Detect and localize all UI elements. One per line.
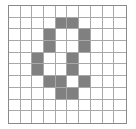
grid-cell-empty xyxy=(103,41,115,53)
grid-cell-empty xyxy=(103,64,115,76)
grid-cell-empty xyxy=(56,53,68,65)
grid-cell-empty xyxy=(9,64,21,76)
grid-cell-empty xyxy=(91,111,103,123)
grid-cell-empty xyxy=(91,6,103,18)
grid-cell-empty xyxy=(21,76,33,88)
grid-cell-empty xyxy=(79,64,91,76)
grid-cell-empty xyxy=(9,100,21,112)
grid-cell-empty xyxy=(32,18,44,30)
grid-cell-shaded xyxy=(56,18,68,30)
grid-cell-empty xyxy=(79,53,91,65)
grid-cell-empty xyxy=(79,111,91,123)
grid-cell-empty xyxy=(9,41,21,53)
grid-cell-empty xyxy=(9,29,21,41)
grid-cell-empty xyxy=(21,64,33,76)
grid-cell-empty xyxy=(21,88,33,100)
grid-cell-empty xyxy=(103,53,115,65)
grid-cell-shaded xyxy=(44,76,56,88)
grid-cell-empty xyxy=(44,111,56,123)
grid-cell-empty xyxy=(114,29,126,41)
grid-cell-empty xyxy=(9,76,21,88)
grid-cell-empty xyxy=(67,76,79,88)
grid-cell-empty xyxy=(56,100,68,112)
grid-cell-empty xyxy=(91,29,103,41)
grid-cell-empty xyxy=(103,76,115,88)
grid-cell-empty xyxy=(9,88,21,100)
grid-cell-shaded xyxy=(67,53,79,65)
grid-cell-empty xyxy=(114,41,126,53)
grid-cell-shaded xyxy=(56,88,68,100)
grid-cell-empty xyxy=(91,41,103,53)
grid-cell-empty xyxy=(79,88,91,100)
grid-cell-empty xyxy=(21,41,33,53)
grid-cell-empty xyxy=(32,100,44,112)
grid-cell-shaded xyxy=(56,76,68,88)
grid-cell-empty xyxy=(44,100,56,112)
grid-cell-empty xyxy=(56,111,68,123)
grid-cell-empty xyxy=(32,29,44,41)
grid-cell-empty xyxy=(44,53,56,65)
grid-cell-empty xyxy=(114,88,126,100)
grid-cell-empty xyxy=(21,111,33,123)
grid-cell-empty xyxy=(114,64,126,76)
grid-cell-empty xyxy=(103,100,115,112)
grid-cell-empty xyxy=(103,6,115,18)
grid-cell-empty xyxy=(21,100,33,112)
grid-cell-shaded xyxy=(67,88,79,100)
grid-cell-empty xyxy=(114,111,126,123)
grid-cell-empty xyxy=(67,111,79,123)
grid-cell-empty xyxy=(56,6,68,18)
grid-cell-empty xyxy=(114,76,126,88)
grid-cell-empty xyxy=(114,18,126,30)
grid-cell-empty xyxy=(91,53,103,65)
grid-cell-empty xyxy=(103,18,115,30)
grid-cell-empty xyxy=(44,88,56,100)
grid-cell-empty xyxy=(56,41,68,53)
grid-cell-shaded xyxy=(67,18,79,30)
grid-cell-empty xyxy=(32,111,44,123)
grid-cell-empty xyxy=(67,41,79,53)
grid-cell-shaded xyxy=(32,53,44,65)
grid-cell-empty xyxy=(79,18,91,30)
grid-cell-empty xyxy=(114,100,126,112)
grid-cell-empty xyxy=(103,29,115,41)
grid-cell-empty xyxy=(103,111,115,123)
grid-cell-empty xyxy=(91,64,103,76)
grid-cell-empty xyxy=(79,6,91,18)
grid-cell-empty xyxy=(32,88,44,100)
grid-cell-shaded xyxy=(67,64,79,76)
grid-cell-empty xyxy=(9,6,21,18)
grid-cell-empty xyxy=(9,18,21,30)
grid-cell-empty xyxy=(79,100,91,112)
grid-cell-empty xyxy=(32,76,44,88)
grid-figure-canvas xyxy=(0,0,136,129)
grid-cell-empty xyxy=(114,6,126,18)
grid-cell-empty xyxy=(91,100,103,112)
grid-cell-empty xyxy=(9,53,21,65)
grid-cell-empty xyxy=(21,29,33,41)
grid-cell-empty xyxy=(32,41,44,53)
grid-cell-empty xyxy=(56,64,68,76)
grid-cell-empty xyxy=(67,100,79,112)
grid-cell-empty xyxy=(21,18,33,30)
grid-cell-empty xyxy=(91,88,103,100)
grid-cell-empty xyxy=(56,29,68,41)
grid-cell-shaded xyxy=(79,76,91,88)
grid-cell-empty xyxy=(21,6,33,18)
shaded-grid xyxy=(8,5,127,124)
grid-cell-empty xyxy=(32,6,44,18)
grid-cell-empty xyxy=(114,53,126,65)
grid-cell-empty xyxy=(44,6,56,18)
grid-cell-empty xyxy=(103,88,115,100)
grid-cell-shaded xyxy=(79,29,91,41)
grid-cell-empty xyxy=(67,6,79,18)
grid-cell-empty xyxy=(44,64,56,76)
grid-cell-empty xyxy=(21,53,33,65)
grid-cell-shaded xyxy=(44,41,56,53)
grid-cell-shaded xyxy=(32,64,44,76)
grid-cell-shaded xyxy=(79,41,91,53)
grid-cell-shaded xyxy=(44,29,56,41)
grid-cell-empty xyxy=(91,18,103,30)
grid-cell-empty xyxy=(44,18,56,30)
grid-cell-empty xyxy=(67,29,79,41)
